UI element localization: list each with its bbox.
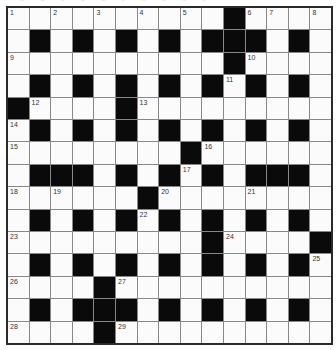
letter-cell[interactable] [181, 75, 202, 96]
letter-cell[interactable] [310, 165, 331, 186]
letter-cell[interactable] [224, 277, 245, 298]
letter-cell[interactable] [181, 232, 202, 253]
letter-cell[interactable] [159, 277, 180, 298]
letter-cell[interactable] [30, 8, 51, 29]
letter-cell[interactable]: 20 [159, 187, 180, 208]
letter-cell[interactable] [8, 254, 29, 275]
letter-cell[interactable]: 19 [51, 187, 72, 208]
letter-cell[interactable] [202, 98, 223, 119]
letter-cell[interactable] [181, 322, 202, 343]
letter-cell[interactable] [310, 277, 331, 298]
letter-cell[interactable] [73, 53, 94, 74]
letter-cell[interactable]: 8 [310, 8, 331, 29]
letter-cell[interactable] [224, 98, 245, 119]
letter-cell[interactable] [30, 322, 51, 343]
letter-cell[interactable] [51, 254, 72, 275]
letter-cell[interactable] [116, 232, 137, 253]
letter-cell[interactable] [159, 8, 180, 29]
letter-cell[interactable]: 2 [51, 8, 72, 29]
letter-cell[interactable] [51, 299, 72, 320]
letter-cell[interactable] [267, 322, 288, 343]
letter-cell[interactable] [73, 142, 94, 163]
letter-cell[interactable] [116, 53, 137, 74]
letter-cell[interactable]: 6 [246, 8, 267, 29]
letter-cell[interactable] [30, 277, 51, 298]
letter-cell[interactable] [267, 142, 288, 163]
letter-cell[interactable] [267, 75, 288, 96]
letter-cell[interactable]: 26 [8, 277, 29, 298]
letter-cell[interactable] [30, 142, 51, 163]
letter-cell[interactable] [267, 299, 288, 320]
letter-cell[interactable] [8, 299, 29, 320]
letter-cell[interactable] [8, 210, 29, 231]
letter-cell[interactable] [224, 120, 245, 141]
letter-cell[interactable] [51, 75, 72, 96]
letter-cell[interactable] [181, 210, 202, 231]
letter-cell[interactable] [51, 232, 72, 253]
letter-cell[interactable] [51, 30, 72, 51]
letter-cell[interactable] [73, 8, 94, 29]
letter-cell[interactable] [138, 277, 159, 298]
letter-cell[interactable] [310, 299, 331, 320]
letter-cell[interactable] [30, 187, 51, 208]
letter-cell[interactable] [138, 254, 159, 275]
letter-cell[interactable] [289, 232, 310, 253]
letter-cell[interactable] [224, 254, 245, 275]
letter-cell[interactable] [51, 98, 72, 119]
letter-cell[interactable] [267, 210, 288, 231]
letter-cell[interactable] [289, 8, 310, 29]
letter-cell[interactable] [224, 165, 245, 186]
letter-cell[interactable] [30, 53, 51, 74]
letter-cell[interactable] [94, 53, 115, 74]
letter-cell[interactable] [159, 53, 180, 74]
letter-cell[interactable] [310, 120, 331, 141]
letter-cell[interactable] [159, 322, 180, 343]
letter-cell[interactable] [159, 232, 180, 253]
letter-cell[interactable] [310, 75, 331, 96]
letter-cell[interactable] [138, 299, 159, 320]
letter-cell[interactable]: 21 [246, 187, 267, 208]
letter-cell[interactable] [181, 277, 202, 298]
letter-cell[interactable] [138, 120, 159, 141]
letter-cell[interactable]: 15 [8, 142, 29, 163]
letter-cell[interactable] [94, 210, 115, 231]
letter-cell[interactable] [181, 30, 202, 51]
letter-cell[interactable]: 24 [224, 232, 245, 253]
letter-cell[interactable] [224, 142, 245, 163]
letter-cell[interactable] [267, 187, 288, 208]
letter-cell[interactable] [224, 322, 245, 343]
letter-cell[interactable] [310, 30, 331, 51]
letter-cell[interactable] [224, 187, 245, 208]
letter-cell[interactable]: 28 [8, 322, 29, 343]
letter-cell[interactable] [138, 53, 159, 74]
letter-cell[interactable]: 29 [116, 322, 137, 343]
letter-cell[interactable] [94, 254, 115, 275]
letter-cell[interactable] [246, 142, 267, 163]
letter-cell[interactable]: 14 [8, 120, 29, 141]
letter-cell[interactable] [138, 232, 159, 253]
letter-cell[interactable] [159, 142, 180, 163]
letter-cell[interactable]: 12 [30, 98, 51, 119]
letter-cell[interactable] [159, 98, 180, 119]
letter-cell[interactable] [224, 210, 245, 231]
letter-cell[interactable]: 16 [202, 142, 223, 163]
letter-cell[interactable] [73, 322, 94, 343]
letter-cell[interactable] [289, 322, 310, 343]
letter-cell[interactable] [181, 254, 202, 275]
letter-cell[interactable] [51, 142, 72, 163]
letter-cell[interactable] [51, 120, 72, 141]
letter-cell[interactable]: 5 [181, 8, 202, 29]
letter-cell[interactable]: 10 [246, 53, 267, 74]
letter-cell[interactable]: 9 [8, 53, 29, 74]
letter-cell[interactable] [289, 142, 310, 163]
letter-cell[interactable] [181, 187, 202, 208]
letter-cell[interactable] [94, 165, 115, 186]
letter-cell[interactable] [202, 187, 223, 208]
letter-cell[interactable] [310, 142, 331, 163]
letter-cell[interactable] [138, 142, 159, 163]
letter-cell[interactable] [267, 277, 288, 298]
letter-cell[interactable]: 22 [138, 210, 159, 231]
letter-cell[interactable] [289, 53, 310, 74]
letter-cell[interactable] [289, 187, 310, 208]
letter-cell[interactable] [310, 322, 331, 343]
